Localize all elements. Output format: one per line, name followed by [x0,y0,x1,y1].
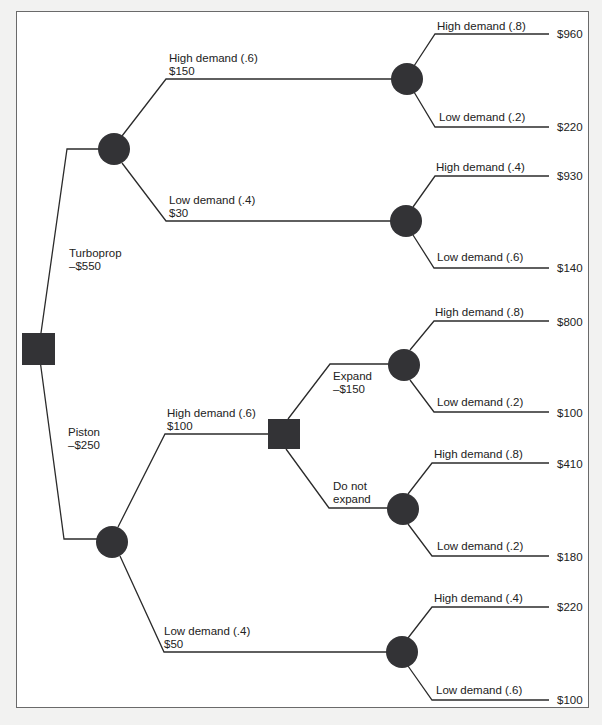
pl-low-label: Low demand (.6) [436,684,522,696]
t-high-low-label: Low demand (.2) [439,111,525,123]
n-low-label: Low demand (.2) [437,540,523,552]
p-high-branch [118,434,268,527]
t-low-high-payoff: $930 [557,170,583,182]
t-high-branch [122,79,393,136]
t-high-low-payoff: $220 [557,121,583,133]
e-low-label: Low demand (.2) [437,396,523,408]
p-low-label: Low demand (.4) [164,625,250,637]
expand-chance-node [388,349,420,381]
turboprop-cost: –$550 [69,260,101,272]
t-low-label: Low demand (.4) [169,194,255,206]
p-high-label: High demand (.6) [167,407,256,419]
n-high-label: High demand (.8) [434,448,523,460]
t-low-chance-node [390,205,422,237]
pl-high-payoff: $220 [557,601,583,613]
no-expand-chance-node [387,493,419,525]
decision-tree: Turboprop –$550 Piston –$250 High demand… [0,0,602,725]
t-high-high-payoff: $960 [557,28,583,40]
t-low-high-branch [413,176,549,207]
pl-low-payoff: $100 [557,694,583,706]
e-high-branch [410,321,549,350]
t-high-label: High demand (.6) [169,52,258,64]
pl-high-label: High demand (.4) [434,592,523,604]
t-low-low-payoff: $140 [557,262,583,274]
t-high-value: $150 [169,65,195,77]
t-high-high-branch [414,34,549,66]
turboprop-label: Turboprop [69,247,122,259]
e-low-payoff: $100 [557,407,583,419]
e-high-label: High demand (.8) [435,306,524,318]
p-low-branch [120,556,390,652]
t-low-high-label: High demand (.4) [436,161,525,173]
piston-label: Piston [68,426,100,438]
no-expand-label-1: Do not [333,480,368,492]
pl-high-branch [408,607,549,638]
p-low-value: $50 [164,638,183,650]
p-low-chance-node [386,636,418,668]
expand-decision-node [268,419,300,449]
t-low-branch [122,163,392,221]
expand-label: Expand [333,370,372,382]
piston-cost: –$250 [68,439,100,451]
no-expand-label-2: expand [333,493,371,505]
root-decision-node [22,333,55,365]
t-low-low-label: Low demand (.6) [437,251,523,263]
t-high-high-label: High demand (.8) [437,20,526,32]
t-high-chance-node [391,63,423,95]
n-low-payoff: $180 [557,551,583,563]
t-low-value: $30 [169,207,188,219]
n-high-payoff: $410 [557,458,583,470]
p-high-value: $100 [167,420,193,432]
turboprop-chance-node [98,133,130,165]
e-high-payoff: $800 [557,316,583,328]
turboprop-branch [40,149,100,340]
expand-cost: –$150 [333,383,365,395]
n-high-branch [408,463,549,494]
piston-chance-node [96,526,128,558]
